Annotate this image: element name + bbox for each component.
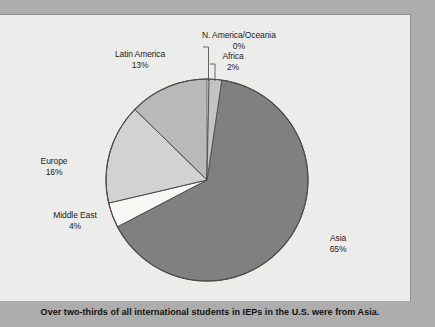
chart-panel: N. America/Oceania 0% Africa 2% Latin Am… xyxy=(0,14,411,301)
figure-container: N. America/Oceania 0% Africa 2% Latin Am… xyxy=(0,0,435,327)
label-asia: Asia 65% xyxy=(318,233,358,254)
pie-slices xyxy=(106,79,308,281)
label-middle-east-name: Middle East xyxy=(53,210,96,220)
label-asia-pct: 65% xyxy=(318,244,358,255)
label-africa-pct: 2% xyxy=(208,62,258,73)
label-north-america-oceania: N. America/Oceania 0% xyxy=(202,30,276,51)
label-middle-east-pct: 4% xyxy=(36,221,114,232)
label-latin-america: Latin America 13% xyxy=(100,49,180,70)
label-middle-east: Middle East 4% xyxy=(36,210,114,231)
label-north-america-oceania-pct: 0% xyxy=(202,41,276,52)
label-africa-name: Africa xyxy=(222,51,243,61)
label-europe-name: Europe xyxy=(41,156,68,166)
label-europe-pct: 16% xyxy=(26,167,82,178)
label-europe: Europe 16% xyxy=(26,156,82,177)
pie-chart: N. America/Oceania 0% Africa 2% Latin Am… xyxy=(0,15,411,302)
label-latin-america-name: Latin America xyxy=(115,49,165,59)
label-north-america-oceania-name: N. America/Oceania xyxy=(202,30,276,40)
label-latin-america-pct: 13% xyxy=(100,60,180,71)
label-africa: Africa 2% xyxy=(208,51,258,72)
label-asia-name: Asia xyxy=(330,233,346,243)
figure-caption: Over two-thirds of all international stu… xyxy=(0,307,420,317)
